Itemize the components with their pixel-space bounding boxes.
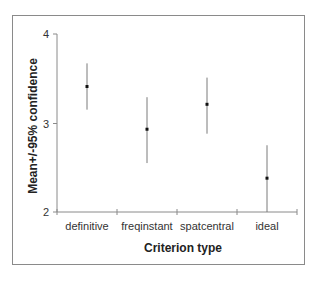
mean-marker-ideal — [266, 177, 269, 180]
mean-marker-freqinstant — [146, 128, 149, 131]
x-category-freqinstant: freqinstant — [121, 220, 172, 232]
x-axis: definitive freqinstant spatcentral ideal — [57, 209, 297, 232]
x-axis-title: Criterion type — [144, 241, 222, 255]
y-axis: 4 3 2 — [43, 28, 57, 218]
y-axis-title: Mean+/-95% confidence — [26, 58, 40, 194]
mean-marker-spatcentral — [206, 103, 209, 106]
error-bar-chart: 4 3 2 definitive freqinstant spatcentral… — [0, 0, 316, 284]
x-category-ideal: ideal — [255, 220, 278, 232]
mean-marker-definitive — [86, 85, 89, 88]
y-tick-3: 3 — [43, 118, 49, 130]
x-category-spatcentral: spatcentral — [180, 220, 234, 232]
y-tick-2: 2 — [43, 206, 49, 218]
y-tick-4: 4 — [43, 28, 49, 40]
x-category-definitive: definitive — [65, 220, 108, 232]
error-bar-series — [86, 63, 269, 212]
